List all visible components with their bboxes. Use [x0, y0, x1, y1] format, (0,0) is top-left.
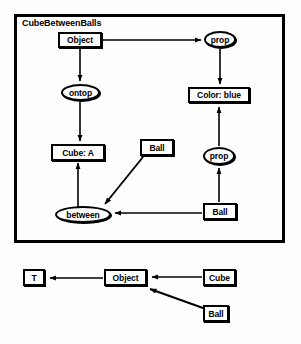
diagram-title: CubeBetweenBalls — [22, 18, 101, 28]
node-color-blue[interactable]: Color: blue — [188, 87, 250, 103]
node-ball-middle[interactable]: Ball — [140, 139, 174, 156]
node-cube-a[interactable]: Cube: A — [51, 144, 105, 161]
node-t[interactable]: T — [23, 269, 45, 286]
diagram-canvas: CubeBetweenBalls Object prop ontop Color… — [0, 0, 301, 344]
node-ontop[interactable]: ontop — [61, 84, 100, 101]
node-prop-top[interactable]: prop — [204, 31, 236, 48]
node-between[interactable]: between — [55, 206, 111, 223]
cube-between-balls-frame — [14, 14, 285, 243]
edge-ball-to-object-bottom — [150, 289, 203, 308]
node-ball-right[interactable]: Ball — [203, 203, 237, 220]
node-object-bottom[interactable]: Object — [104, 269, 147, 286]
node-prop-lower[interactable]: prop — [203, 147, 235, 165]
node-ball-bottom[interactable]: Ball — [203, 305, 229, 322]
node-cube-bottom[interactable]: Cube — [203, 269, 236, 286]
node-object-top[interactable]: Object — [58, 32, 102, 48]
